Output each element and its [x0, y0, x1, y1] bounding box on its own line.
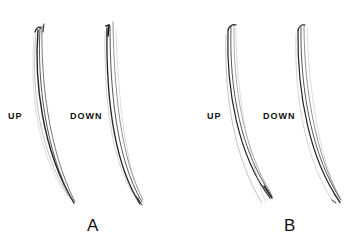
- panel-a-down-strand: [105, 22, 143, 205]
- strand-tracings: [0, 0, 355, 243]
- panel-b-down-label: DOWN: [263, 111, 296, 121]
- panel-a-up-label: UP: [8, 111, 23, 121]
- figure: UP DOWN A UP DOWN B: [0, 0, 355, 243]
- panel-a-down-label: DOWN: [70, 111, 103, 121]
- panel-b-up-label: UP: [207, 111, 222, 121]
- panel-b-letter: B: [284, 216, 295, 236]
- panel-a-up-strand: [33, 24, 75, 203]
- panel-a-letter: A: [87, 216, 98, 236]
- panel-b-down-strand: [296, 25, 341, 203]
